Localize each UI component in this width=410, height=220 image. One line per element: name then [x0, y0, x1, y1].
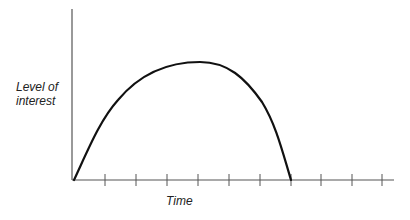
interest-curve — [74, 62, 291, 180]
y-axis-label: Level of interest — [16, 80, 66, 108]
y-axis-label-line2: interest — [16, 94, 66, 108]
x-axis-label: Time — [166, 194, 193, 208]
interest-curve-diagram — [0, 0, 410, 220]
y-axis-label-line1: Level of — [16, 80, 66, 94]
